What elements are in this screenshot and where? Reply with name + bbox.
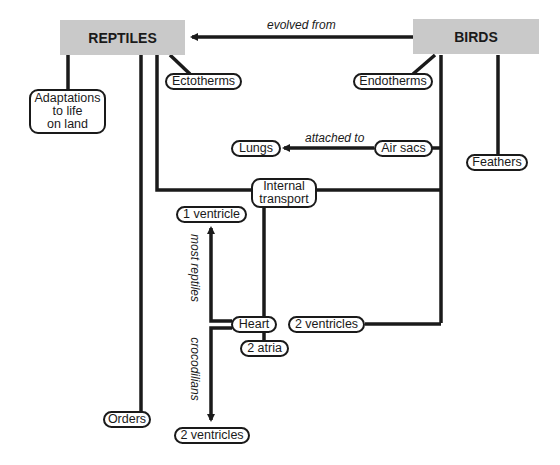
concept-map-lines [0, 0, 560, 465]
reptiles-concept: REPTILES [60, 20, 185, 55]
most-reptiles-label: most reptiles [188, 228, 202, 308]
one-ventricle-node: 1 ventricle [176, 206, 247, 223]
orders-node: Orders [103, 411, 151, 428]
lungs-node: Lungs [231, 140, 281, 157]
two-atria-node: 2 atria [240, 340, 289, 357]
birds-concept: BIRDS [413, 19, 539, 54]
ectotherms-node: Ectotherms [165, 73, 242, 90]
two-ventricles-bottom-node: 2 ventricles [174, 427, 250, 444]
endotherms-node: Endotherms [353, 73, 433, 90]
air-sacs-node: Air sacs [374, 140, 433, 157]
crocodilians-label: crocodilians [188, 334, 202, 404]
feathers-node: Feathers [466, 154, 528, 171]
internal-transport-node: Internal transport [251, 178, 317, 208]
two-ventricles-node: 2 ventricles [288, 316, 365, 333]
adaptations-node: Adaptations to life on land [29, 89, 106, 134]
evolved-from-label: evolved from [267, 18, 336, 32]
attached-to-label: attached to [305, 131, 364, 145]
heart-node: Heart [231, 316, 277, 333]
